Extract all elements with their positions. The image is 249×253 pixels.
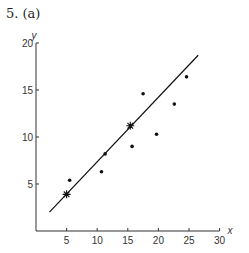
x-tick-label: 30 (214, 235, 226, 246)
y-tick-label: 15 (22, 85, 34, 96)
x-tick-label: 5 (64, 235, 70, 246)
data-point (155, 132, 159, 136)
data-point (185, 75, 189, 79)
x-tick-label: 10 (92, 235, 104, 246)
scatter-chart: 510152051015202530yx (0, 0, 249, 253)
x-axis-label: x (227, 225, 234, 236)
y-tick-label: 5 (27, 179, 33, 190)
data-point (100, 170, 104, 174)
x-tick-label: 15 (122, 235, 134, 246)
star-marker (126, 122, 134, 130)
x-tick-label: 20 (153, 235, 165, 246)
data-point (130, 145, 134, 149)
x-tick-label: 25 (183, 235, 195, 246)
y-tick-label: 10 (22, 132, 34, 143)
data-point (141, 92, 145, 96)
data-point (173, 102, 177, 106)
y-axis-label: y (31, 30, 38, 41)
data-point (68, 178, 72, 182)
fitted-line (49, 55, 198, 212)
